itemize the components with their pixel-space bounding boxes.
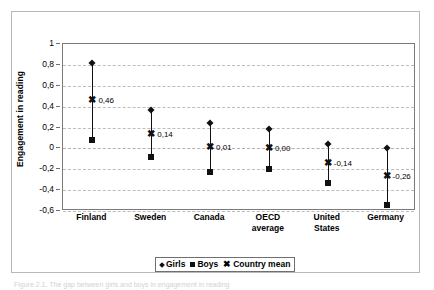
x-axis-label: Germany <box>367 212 404 223</box>
boys-marker <box>266 166 272 172</box>
figure-caption: Figure 2.1. The gap between girls and bo… <box>14 281 420 290</box>
country-mean-value-label: 0,46 <box>98 96 114 105</box>
x-axis-label: Finland <box>76 212 106 223</box>
y-tick-mark <box>56 168 60 169</box>
y-axis-ticks: 10,80,60,40,20-0,2-0,4-0,6 <box>0 43 60 210</box>
x-axis-labels: FinlandSwedenCanadaOECD averageUnited St… <box>62 212 415 238</box>
plot-area: ✖0,46✖0,14✖0,01✖0,00✖-0,14✖-0,26 <box>62 43 415 210</box>
country-mean-marker: ✖ <box>88 95 96 105</box>
y-tick-label: 0,8 <box>42 59 54 69</box>
x-axis-label: Sweden <box>134 212 166 223</box>
country-mean-marker: ✖ <box>265 143 273 153</box>
country-mean-value-label: 0,14 <box>157 129 173 138</box>
y-tick-mark <box>56 85 60 86</box>
y-tick-label: 0 <box>49 142 54 152</box>
girls-marker <box>207 120 214 127</box>
y-tick-mark <box>56 64 60 65</box>
gridline <box>63 190 414 191</box>
y-tick-mark <box>56 147 60 148</box>
country-mean-marker: ✖ <box>206 142 214 152</box>
y-tick-mark <box>56 43 60 44</box>
diamond-icon <box>159 262 165 268</box>
y-tick-mark <box>56 189 60 190</box>
country-mean-marker: ✖ <box>383 171 391 181</box>
country-mean-value-label: 0,01 <box>216 143 232 152</box>
boys-marker <box>207 169 213 175</box>
legend-label: Country mean <box>233 259 290 270</box>
boys-marker <box>384 202 390 208</box>
x-axis-label: United States <box>314 212 340 233</box>
y-tick-label: 0,2 <box>42 122 54 132</box>
y-tick-label: 0,6 <box>42 80 54 90</box>
y-tick-label: -0,2 <box>39 163 54 173</box>
country-mean-value-label: 0,00 <box>275 144 291 153</box>
x-axis-label: Canada <box>194 212 225 223</box>
x-icon: ✖ <box>223 260 231 269</box>
country-mean-value-label: -0,26 <box>393 171 411 180</box>
girls-marker <box>383 145 390 152</box>
country-mean-marker: ✖ <box>147 129 155 139</box>
boys-marker <box>325 180 331 186</box>
legend-item: ✖Country mean <box>223 259 290 270</box>
y-tick-label: -0,4 <box>39 184 54 194</box>
country-mean-marker: ✖ <box>324 158 332 168</box>
y-tick-label: 1 <box>49 38 54 48</box>
girls-marker <box>265 125 272 132</box>
gridline <box>63 128 414 129</box>
boys-marker <box>148 154 154 160</box>
legend-item: Boys <box>190 259 218 270</box>
y-tick-label: -0,6 <box>39 205 54 215</box>
legend-label: Girls <box>166 259 185 270</box>
gridline <box>63 148 414 149</box>
chart-legend: GirlsBoys✖Country mean <box>155 257 295 272</box>
gridline <box>63 169 414 170</box>
y-tick-mark <box>56 127 60 128</box>
gridline <box>63 65 414 66</box>
y-tick-mark <box>56 210 60 211</box>
chart-figure: Engagement in reading 10,80,60,40,20-0,2… <box>0 0 434 290</box>
y-tick-mark <box>56 106 60 107</box>
square-icon <box>190 262 195 267</box>
gridline <box>63 86 414 87</box>
legend-item: Girls <box>160 259 185 270</box>
x-axis-label: OECD average <box>252 212 284 233</box>
girls-marker <box>324 141 331 148</box>
gridline <box>63 107 414 108</box>
legend-label: Boys <box>197 259 218 270</box>
y-tick-label: 0,4 <box>42 101 54 111</box>
country-mean-value-label: -0,14 <box>334 158 352 167</box>
boys-marker <box>89 137 95 143</box>
